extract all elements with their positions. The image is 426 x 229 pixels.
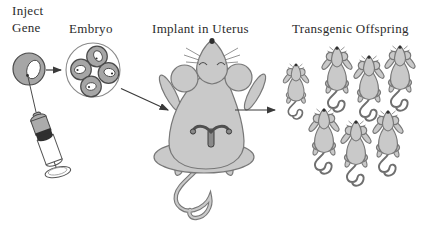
offspring-mouse [340,121,373,186]
diagram-canvas: Inject Gene Embryo Implant in Uterus Tra… [0,0,426,229]
embryo [66,43,120,97]
embryo-cell [81,76,102,97]
offspring-group [282,46,416,186]
offspring-mouse [308,109,341,174]
offspring-mouse [384,46,417,111]
label-transgenic-offspring: Transgenic Offspring [292,21,409,36]
mother-mouse-ear [171,65,198,92]
arrow-embryo-to-mother [121,89,168,111]
mother-mouse-nose [209,38,214,44]
mother-mouse-head [197,40,228,84]
label-inject-gene-line1: Inject [12,3,43,18]
mother-mouse [154,38,269,218]
label-embryo: Embryo [69,21,113,36]
transgenic-mice-diagram: Inject Gene Embryo Implant in Uterus Tra… [0,0,426,229]
offspring-mouse [321,47,354,112]
label-implant-in-uterus: Implant in Uterus [152,21,249,36]
offspring-mouse [353,56,386,121]
offspring-mouse [372,111,405,176]
embryo-cell [98,63,119,84]
label-inject-gene-line2: Gene [12,20,41,35]
syringe [23,108,72,183]
offspring-mouse [282,64,310,119]
mother-mouse-ear [225,64,252,91]
